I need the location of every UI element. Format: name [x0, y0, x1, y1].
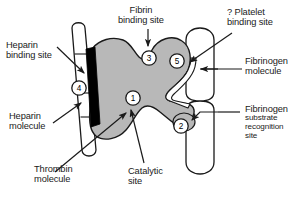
- fibrin-binding-site-line1: Fibrin: [118, 5, 164, 15]
- callout-number-4: 4: [77, 84, 82, 93]
- leader-heparin-molecule: [53, 103, 81, 123]
- label-heparin-molecule: Heparin molecule: [9, 111, 45, 131]
- fibrinogen-molecule-shape: [186, 28, 214, 174]
- fibrinogen-substrate-line4: site: [245, 132, 288, 141]
- thrombin-interaction-diagram: 1 2 3 4 5: [0, 0, 298, 201]
- callout-circle-1: 1: [126, 91, 140, 105]
- catalytic-site-line1: Catalytic: [128, 166, 163, 176]
- heparin-molecule-line1: Heparin: [9, 111, 45, 121]
- label-heparin-binding-site: Heparin binding site: [6, 40, 52, 60]
- platelet-binding-site-line1: ? Platelet: [227, 7, 273, 17]
- callout-circle-5: 5: [170, 54, 184, 68]
- callout-circle-3: 3: [142, 51, 156, 65]
- callout-number-5: 5: [175, 57, 180, 66]
- callout-circle-4: 4: [72, 81, 86, 95]
- label-platelet-binding-site: ? Platelet binding site: [227, 7, 273, 27]
- catalytic-site-line2: site: [128, 176, 163, 186]
- label-fibrinogen-molecule: Fibrinogen molecule: [245, 56, 288, 76]
- callout-number-2: 2: [179, 122, 184, 131]
- platelet-binding-site-line2: binding site: [227, 17, 273, 27]
- label-thrombin-molecule: Thrombin molecule: [34, 164, 72, 184]
- fibrin-binding-site-line2: binding site: [118, 15, 164, 25]
- label-fibrinogen-substrate-recognition-site: Fibrinogen substrate recognition site: [245, 104, 288, 140]
- callout-number-1: 1: [131, 94, 136, 103]
- label-catalytic-site: Catalytic site: [128, 166, 163, 186]
- callout-circle-2: 2: [174, 119, 188, 133]
- heparin-molecule-line2: molecule: [9, 121, 45, 131]
- thrombin-molecule-line2: molecule: [34, 174, 72, 184]
- fibrinogen-molecule-line1: Fibrinogen: [245, 56, 288, 66]
- label-fibrin-binding-site: Fibrin binding site: [118, 5, 164, 25]
- thrombin-molecule-line1: Thrombin: [34, 164, 72, 174]
- fibrinogen-molecule-line2: molecule: [245, 66, 288, 76]
- leader-catalytic-site: [131, 110, 144, 163]
- callout-number-3: 3: [147, 54, 152, 63]
- heparin-binding-site-line2: binding site: [6, 50, 52, 60]
- heparin-binding-site-line1: Heparin: [6, 40, 52, 50]
